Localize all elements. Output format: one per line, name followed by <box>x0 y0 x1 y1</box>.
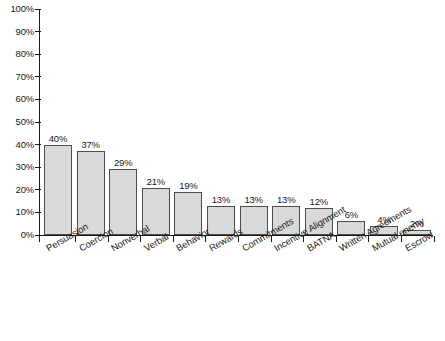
bar-value-label: 37% <box>69 139 113 150</box>
bar-value-label: 19% <box>166 180 210 191</box>
y-axis-tick-mark <box>35 76 41 77</box>
y-axis-tick-label: 80% <box>0 48 34 60</box>
bar-value-label: 29% <box>101 157 145 168</box>
y-axis-tick-label: 50% <box>0 116 34 128</box>
y-axis-tick-mark <box>35 54 41 55</box>
y-axis-tick-label: 0% <box>0 229 34 241</box>
y-axis-tick-mark <box>35 167 41 168</box>
y-axis-tick: 10% <box>0 206 47 218</box>
y-axis-tick-label: 100% <box>0 3 34 15</box>
y-axis-tick: 90% <box>0 26 47 38</box>
y-axis-tick-mark <box>35 31 41 32</box>
bar-chart: 0%10%20%30%40%50%60%70%80%90%100% 40%37%… <box>0 0 445 341</box>
y-axis-tick: 100% <box>0 3 47 15</box>
y-axis-tick-mark <box>35 9 41 10</box>
y-axis-tick-mark <box>35 99 41 100</box>
y-axis-tick: 60% <box>0 93 47 105</box>
bar-value-label: 12% <box>297 196 341 207</box>
x-axis-tick-mark <box>173 236 174 242</box>
y-axis-tick-mark <box>35 212 41 213</box>
y-axis-tick: 50% <box>0 116 47 128</box>
bar <box>44 145 72 235</box>
y-axis-tick-label: 90% <box>0 26 34 38</box>
y-axis-tick-label: 30% <box>0 161 34 173</box>
y-axis-tick: 80% <box>0 48 47 60</box>
y-axis-tick-mark <box>35 189 41 190</box>
y-axis-tick-mark <box>35 144 41 145</box>
y-axis-tick-mark <box>35 122 41 123</box>
y-axis-tick-label: 70% <box>0 71 34 83</box>
x-axis-tick-mark <box>39 236 40 242</box>
y-axis-tick: 30% <box>0 161 47 173</box>
y-axis-tick: 70% <box>0 71 47 83</box>
y-axis-tick-mark <box>35 235 41 236</box>
y-axis-tick-label: 60% <box>0 93 34 105</box>
y-axis-tick: 20% <box>0 184 47 196</box>
y-axis-tick-label: 10% <box>0 206 34 218</box>
y-axis-tick-label: 20% <box>0 184 34 196</box>
y-axis-tick-label: 40% <box>0 139 34 151</box>
